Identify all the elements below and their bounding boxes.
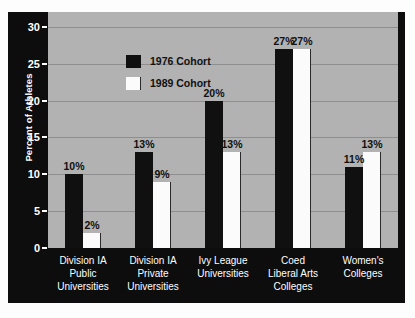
legend-item-1976: 1976 Cohort (126, 52, 211, 70)
gridline (48, 64, 398, 65)
y-tick-label: 0 (14, 243, 40, 254)
y-axis-label: Percent of Athletes (23, 53, 34, 183)
bar-value-label: 13% (219, 139, 245, 150)
legend-swatch-1989-icon (126, 77, 141, 90)
bar-1976 (65, 174, 83, 248)
bar-value-label: 27% (289, 36, 315, 47)
y-tick-mark (42, 136, 47, 138)
y-tick-mark (42, 100, 47, 102)
y-tick-label: 20 (14, 96, 40, 107)
plot-area: 1976 Cohort 1989 Cohort (48, 12, 398, 248)
bar-1976 (275, 49, 293, 248)
y-tick-mark (42, 63, 47, 65)
bar-value-label: 11% (341, 154, 367, 165)
legend-label-1976: 1976 Cohort (150, 55, 211, 67)
y-tick-label: 5 (14, 206, 40, 217)
y-tick-label: 15 (14, 132, 40, 143)
bar-1989 (293, 49, 311, 248)
bar-value-label: 20% (201, 88, 227, 99)
gridline (48, 27, 398, 28)
bar-1989 (223, 152, 241, 248)
legend-swatch-1976-icon (126, 55, 141, 68)
bar-1989 (363, 152, 381, 248)
x-axis-category-label: Women's Colleges (319, 254, 407, 280)
gridline (48, 101, 398, 102)
bar-1989 (83, 233, 101, 248)
bar-value-label: 13% (359, 139, 385, 150)
y-tick-label: 30 (14, 22, 40, 33)
bar-1976 (205, 101, 223, 249)
y-tick-label: 10 (14, 169, 40, 180)
chart-legend: 1976 Cohort 1989 Cohort (126, 52, 211, 96)
y-tick-mark (42, 26, 47, 28)
bar-value-label: 10% (61, 161, 87, 172)
y-tick-label: 25 (14, 59, 40, 70)
bar-value-label: 2% (79, 220, 105, 231)
bar-1976 (345, 167, 363, 248)
y-tick-mark (42, 247, 47, 249)
bar-value-label: 9% (149, 169, 175, 180)
y-tick-mark (42, 210, 47, 212)
bar-1989 (153, 182, 171, 248)
y-tick-mark (42, 173, 47, 175)
bar-value-label: 13% (131, 139, 157, 150)
chart-figure: Percent of Athletes 051015202530 1976 Co… (0, 0, 415, 318)
legend-item-1989: 1989 Cohort (126, 74, 211, 92)
bar-1976 (135, 152, 153, 248)
